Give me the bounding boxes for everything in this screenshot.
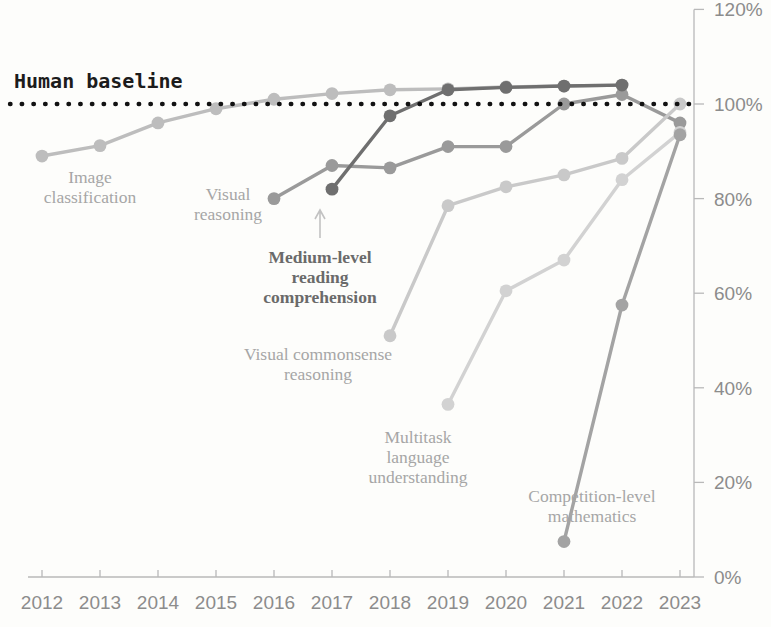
data-point — [326, 159, 339, 172]
data-point — [616, 299, 629, 312]
x-axis-tick-labels: 2012201320142015201620172018201920202021… — [21, 592, 701, 613]
data-point — [500, 180, 513, 193]
data-point — [384, 83, 397, 96]
data-point — [326, 87, 339, 100]
x-tick-label: 2019 — [427, 592, 469, 613]
data-point — [616, 173, 629, 186]
data-point — [500, 140, 513, 153]
x-tick-label: 2022 — [601, 592, 643, 613]
medium-level-pointer-arrow — [315, 210, 325, 238]
series-competition-level-mathematics — [558, 128, 687, 548]
x-tick-label: 2016 — [253, 592, 295, 613]
chart-container: ImageclassificationVisualreasoningMedium… — [0, 0, 771, 627]
series-visual-commonsense-reasoning — [384, 98, 687, 343]
data-point — [558, 80, 571, 93]
y-tick-label: 60% — [714, 283, 752, 304]
data-point — [36, 150, 49, 163]
image-classification-label: Imageclassification — [44, 167, 137, 207]
data-point — [442, 199, 455, 212]
series-annotations: ImageclassificationVisualreasoningMedium… — [44, 167, 656, 526]
series-line — [564, 135, 680, 542]
data-point — [500, 81, 513, 94]
series-lines — [36, 79, 687, 548]
y-tick-label: 40% — [714, 378, 752, 399]
x-tick-label: 2023 — [659, 592, 701, 613]
data-point — [442, 140, 455, 153]
y-axis-tick-labels: 0%20%40%60%80%100%120% — [714, 0, 763, 588]
data-point — [442, 83, 455, 96]
medium-level-reading-comprehension-label: Medium-levelreadingcomprehension — [263, 247, 377, 307]
data-point — [384, 109, 397, 122]
series-medium-level-reading-comprehension — [326, 79, 629, 196]
data-point — [558, 254, 571, 267]
visual-reasoning-label: Visualreasoning — [194, 184, 262, 224]
data-point — [500, 284, 513, 297]
x-tick-label: 2020 — [485, 592, 527, 613]
y-tick-label: 80% — [714, 189, 752, 210]
human-baseline-label: Human baseline — [14, 69, 183, 93]
data-point — [558, 535, 571, 548]
x-tick-label: 2017 — [311, 592, 353, 613]
x-tick-label: 2018 — [369, 592, 411, 613]
data-point — [152, 117, 165, 130]
visual-commonsense-reasoning-label: Visual commonsensereasoning — [244, 344, 392, 384]
x-tick-label: 2013 — [79, 592, 121, 613]
x-tick-label: 2012 — [21, 592, 63, 613]
x-tick-label: 2015 — [195, 592, 237, 613]
data-point — [384, 329, 397, 342]
data-point — [384, 161, 397, 174]
data-point — [674, 128, 687, 141]
data-point — [442, 398, 455, 411]
data-point — [94, 139, 107, 152]
competition-level-mathematics-label: Competition-levelmathematics — [528, 486, 655, 526]
y-tick-label: 0% — [714, 567, 742, 588]
series-line — [390, 104, 680, 336]
multitask-language-understanding-label: Multitasklanguageunderstanding — [368, 427, 467, 487]
data-point — [268, 192, 281, 205]
x-tick-label: 2014 — [137, 592, 180, 613]
y-tick-label: 120% — [714, 0, 763, 20]
data-point — [616, 152, 629, 165]
data-point — [558, 169, 571, 182]
data-point — [616, 79, 629, 92]
line-chart: ImageclassificationVisualreasoningMedium… — [0, 0, 771, 627]
x-tick-label: 2021 — [543, 592, 585, 613]
y-tick-label: 100% — [714, 94, 763, 115]
data-point — [326, 183, 339, 196]
y-tick-label: 20% — [714, 472, 752, 493]
